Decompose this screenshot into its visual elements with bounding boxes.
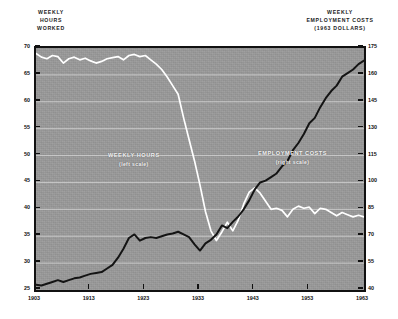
left-axis-tick (35, 207, 40, 209)
right-axis-tick-label: 115 (368, 151, 388, 157)
annotation-weekly-hours-title: WEEKLY HOURS (108, 151, 160, 160)
left-axis-tick-label: 60 (14, 97, 30, 103)
x-axis-tick-label: 1943 (238, 295, 268, 301)
annotation-employment-costs: EMPLOYMENT COSTS (right scale) (258, 149, 327, 166)
x-axis-tick (88, 284, 90, 289)
left-axis-tick-label: 70 (14, 43, 30, 49)
left-axis-tick-label: 30 (14, 258, 30, 264)
right-axis-tick-label: 175 (368, 43, 388, 49)
left-axis-tick-label: 65 (14, 70, 30, 76)
left-axis-tick (35, 126, 40, 128)
plot-area: WEEKLY HOURS (left scale) EMPLOYMENT COS… (34, 46, 366, 292)
x-axis-tick (307, 284, 309, 289)
left-axis-title-line-1: WEEKLY (16, 8, 86, 16)
right-axis-tick (358, 260, 363, 262)
right-axis-tick (358, 45, 363, 47)
left-axis-tick-label: 35 (14, 231, 30, 237)
right-axis-tick (358, 287, 363, 289)
left-axis-tick (35, 153, 40, 155)
right-axis-title: WEEKLY EMPLOYMENT COSTS (1963 DOLLARS) (286, 8, 394, 33)
annotation-employment-costs-title: EMPLOYMENT COSTS (258, 149, 327, 158)
right-axis-tick (358, 180, 363, 182)
x-axis-tick-label: 1903 (19, 295, 49, 301)
left-axis-tick-label: 55 (14, 124, 30, 130)
annotation-employment-costs-sub: (right scale) (258, 158, 327, 167)
right-axis-tick-label: 40 (368, 285, 388, 291)
left-axis-title-line-3: WORKED (16, 24, 86, 32)
right-axis-tick (358, 153, 363, 155)
right-axis-tick-label: 55 (368, 258, 388, 264)
left-axis-tick (35, 180, 40, 182)
right-axis-tick (358, 207, 363, 209)
left-axis-title: WEEKLY HOURS WORKED (16, 8, 86, 33)
right-axis-title-line-3: (1963 DOLLARS) (286, 24, 394, 32)
left-axis-tick-label: 25 (14, 285, 30, 291)
left-axis-title-line-2: HOURS (16, 16, 86, 24)
right-axis-tick-label: 160 (368, 70, 388, 76)
x-axis-tick-label: 1963 (347, 295, 377, 301)
data-curves (36, 48, 364, 290)
x-axis-tick-label: 1923 (128, 295, 158, 301)
right-axis-tick (358, 72, 363, 74)
right-axis-title-line-1: WEEKLY (286, 8, 394, 16)
left-axis-tick-label: 45 (14, 177, 30, 183)
left-axis-tick (35, 287, 40, 289)
right-axis-tick-label: 70 (368, 231, 388, 237)
chart-figure: WEEKLY HOURS WORKED WEEKLY EMPLOYMENT CO… (0, 0, 398, 319)
left-axis-tick (35, 233, 40, 235)
x-axis-tick (252, 284, 254, 289)
x-axis-tick (197, 284, 199, 289)
left-axis-tick (35, 72, 40, 74)
right-axis-tick-label: 100 (368, 177, 388, 183)
right-axis-tick (358, 126, 363, 128)
annotation-weekly-hours: WEEKLY HOURS (left scale) (108, 151, 160, 168)
x-axis-tick-label: 1913 (74, 295, 104, 301)
right-axis-title-line-2: EMPLOYMENT COSTS (286, 16, 394, 24)
left-axis-tick (35, 45, 40, 47)
right-axis-tick (358, 99, 363, 101)
left-axis-tick (35, 260, 40, 262)
left-axis-tick (35, 99, 40, 101)
x-axis-tick-label: 1953 (292, 295, 322, 301)
right-axis-tick-label: 130 (368, 124, 388, 130)
left-axis-tick-label: 40 (14, 204, 30, 210)
x-axis-tick (143, 284, 145, 289)
x-axis-tick-label: 1933 (183, 295, 213, 301)
annotation-weekly-hours-sub: (left scale) (108, 160, 160, 169)
left-axis-tick-label: 50 (14, 151, 30, 157)
right-axis-tick-label: 85 (368, 204, 388, 210)
right-axis-tick (358, 233, 363, 235)
right-axis-tick-label: 145 (368, 97, 388, 103)
